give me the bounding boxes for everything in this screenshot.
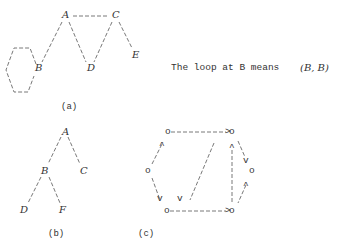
loop-note-text: The loop at B means	[171, 63, 279, 73]
node-a-B: B	[35, 63, 42, 73]
loop-b	[6, 48, 36, 92]
edge-c-diag	[190, 143, 214, 200]
caption-a: (a)	[61, 103, 77, 112]
edge-c-d	[94, 22, 112, 62]
node-a-A: A	[62, 10, 69, 20]
node-b-F: F	[59, 205, 66, 215]
node-b-C: C	[80, 166, 88, 176]
node-c-top-left: o	[165, 127, 171, 137]
edge-b-a-b	[48, 137, 61, 164]
edge-a-d	[69, 22, 86, 62]
edge-c-e	[119, 22, 132, 48]
arrowhead-right-down-icon: v	[243, 156, 249, 166]
edge-b-a-c	[68, 137, 80, 164]
caption-c: (c)	[138, 230, 154, 239]
arrowhead-mid-down-icon: v	[177, 194, 183, 204]
arrowhead-right-up2-icon: ^	[243, 181, 249, 191]
node-a-C: C	[112, 10, 120, 20]
arrowhead-bottom-icon: >	[225, 206, 231, 216]
node-c-bottom-left: o	[164, 206, 170, 216]
arrowhead-left-down-icon: v	[157, 194, 163, 204]
node-b-A: A	[62, 127, 69, 137]
caption-b: (b)	[48, 230, 64, 239]
node-b-B: B	[41, 166, 48, 176]
node-c-right: o	[249, 166, 255, 176]
node-b-D: D	[20, 205, 28, 215]
edge-b-b-d	[28, 177, 41, 203]
edges-layer	[0, 0, 350, 248]
node-c-left: o	[145, 166, 151, 176]
node-a-D: D	[87, 63, 95, 73]
arrowhead-right-up-icon: ^	[229, 143, 235, 153]
edge-a-b	[42, 22, 62, 62]
node-a-E: E	[132, 50, 139, 60]
arrowhead-left-up-icon: ^	[159, 141, 165, 151]
arrowhead-top-icon: >	[225, 127, 231, 137]
loop-note-pair: (B, B)	[300, 63, 329, 73]
edge-b-b-f	[49, 177, 60, 203]
